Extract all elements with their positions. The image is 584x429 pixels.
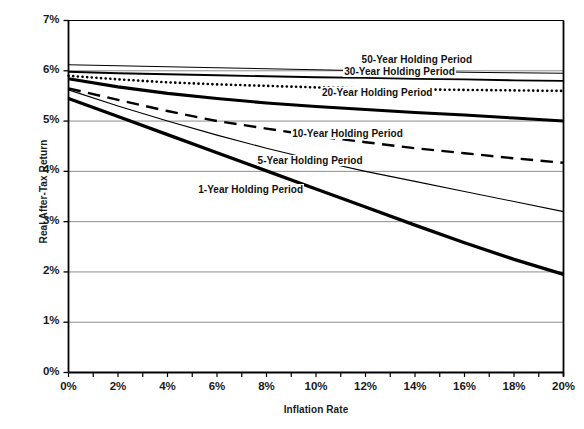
y-axis-tick-label: 6% [20,63,60,75]
x-axis-tick-label: 14% [393,380,437,392]
series-inline-label-4: 10-Year Holding Period [291,128,404,139]
chart-container: 0%1%2%3%4%5%6%7%0%2%4%6%8%10%12%14%16%18… [0,0,584,429]
series-inline-label-1: 50-Year Holding Period [361,54,474,65]
series-inline-label-5: 5-Year Holding Period [257,155,364,166]
y-axis-tick-label: 7% [20,13,60,25]
y-axis-tick-label: 1% [20,314,60,326]
x-axis-tick-label: 0% [47,380,91,392]
series-line-2 [69,72,564,81]
y-axis-tick-label: 0% [20,365,60,377]
series-inline-label-2: 30-Year Holding Period [343,66,456,77]
x-axis-tick-label: 12% [344,380,388,392]
series-line-4 [69,79,564,121]
series-line-6 [69,90,564,212]
series-line-7 [69,98,564,274]
x-axis-tick-label: 10% [294,380,338,392]
y-axis-title: Real After-Tax Return [38,92,49,292]
line-chart [0,0,584,429]
x-axis-tick-label: 6% [195,380,239,392]
x-axis-tick-label: 8% [245,380,289,392]
x-axis-tick-label: 20% [542,380,584,392]
series-inline-label-6: 1-Year Holding Period [197,184,304,195]
series-inline-label-3: 20-Year Holding Period [321,87,434,98]
x-axis-title: Inflation Rate [68,404,564,415]
x-axis-tick-label: 16% [443,380,487,392]
x-axis-tick-label: 2% [96,380,140,392]
x-axis-tick-label: 4% [146,380,190,392]
series-line-1 [69,65,564,74]
x-axis-tick-label: 18% [492,380,536,392]
